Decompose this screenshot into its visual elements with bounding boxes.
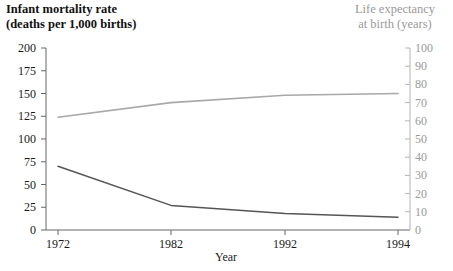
series-life-expectancy [58,94,398,118]
x-tick-label: 1992 [255,238,315,250]
right-tick-label: 30 [415,169,441,181]
x-axis-label: Year [176,250,276,265]
left-tick-label: 125 [4,110,36,122]
right-tick-label: 80 [415,78,441,90]
right-tick-label: 100 [415,42,441,54]
chart-figure: Infant mortality rate (deaths per 1,000 … [0,0,453,271]
left-tick-label: 75 [4,156,36,168]
left-tick-label: 200 [4,42,36,54]
right-tick-label: 20 [415,188,441,200]
left-tick-label: 50 [4,179,36,191]
x-tick-label: 1982 [141,238,201,250]
left-tick-label: 175 [4,65,36,77]
plot-canvas [0,0,453,271]
x-axis-ticks [58,230,398,235]
left-tick-label: 0 [4,224,36,236]
right-tick-label: 70 [415,97,441,109]
left-tick-label: 150 [4,88,36,100]
right-tick-label: 10 [415,206,441,218]
x-tick-label: 1994 [368,238,428,250]
right-tick-label: 90 [415,60,441,72]
series-infant-mortality [58,166,398,217]
right-tick-label: 0 [415,224,441,236]
x-tick-label: 1972 [28,238,88,250]
left-tick-label: 25 [4,201,36,213]
left-tick-label: 100 [4,133,36,145]
right-tick-label: 60 [415,115,441,127]
left-axis-ticks [41,48,46,230]
right-tick-label: 40 [415,151,441,163]
right-tick-label: 50 [415,133,441,145]
right-axis-ticks [405,48,410,230]
